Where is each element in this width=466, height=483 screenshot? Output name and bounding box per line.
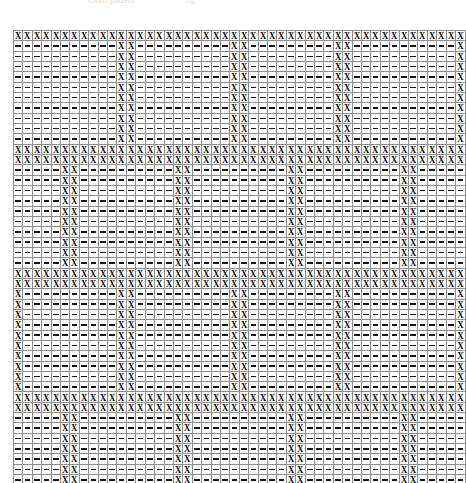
- chart-cell-filled[interactable]: X: [399, 475, 408, 483]
- chart-cell-open[interactable]: [437, 351, 446, 361]
- chart-cell-open[interactable]: [427, 216, 436, 226]
- chart-cell-open[interactable]: [352, 216, 361, 226]
- chart-cell-open[interactable]: [446, 216, 455, 226]
- chart-cell-filled[interactable]: X: [89, 278, 98, 288]
- chart-cell-filled[interactable]: X: [305, 392, 314, 402]
- chart-cell-open[interactable]: [230, 464, 239, 474]
- chart-cell-open[interactable]: [42, 413, 51, 423]
- chart-cell-filled[interactable]: X: [343, 82, 352, 92]
- chart-cell-open[interactable]: [108, 51, 117, 61]
- chart-cell-filled[interactable]: X: [286, 392, 295, 402]
- chart-cell-open[interactable]: [202, 82, 211, 92]
- chart-cell-filled[interactable]: X: [286, 144, 295, 154]
- chart-cell-open[interactable]: [155, 330, 164, 340]
- chart-cell-open[interactable]: [220, 237, 229, 247]
- chart-cell-filled[interactable]: X: [173, 402, 182, 412]
- chart-cell-filled[interactable]: X: [173, 475, 182, 483]
- chart-cell-open[interactable]: [305, 361, 314, 371]
- chart-cell-open[interactable]: [390, 227, 399, 237]
- chart-cell-open[interactable]: [42, 247, 51, 257]
- chart-cell-open[interactable]: [98, 289, 107, 299]
- chart-cell-open[interactable]: [324, 464, 333, 474]
- chart-cell-open[interactable]: [89, 134, 98, 144]
- chart-cell-open[interactable]: [164, 216, 173, 226]
- chart-cell-open[interactable]: [296, 82, 305, 92]
- chart-cell-open[interactable]: [239, 433, 248, 443]
- chart-cell-open[interactable]: [42, 72, 51, 82]
- chart-cell-filled[interactable]: X: [456, 31, 466, 41]
- chart-cell-open[interactable]: [136, 82, 145, 92]
- chart-cell-open[interactable]: [418, 475, 427, 483]
- chart-cell-filled[interactable]: X: [352, 31, 361, 41]
- chart-cell-filled[interactable]: X: [286, 237, 295, 247]
- chart-cell-open[interactable]: [249, 123, 258, 133]
- chart-cell-open[interactable]: [89, 165, 98, 175]
- chart-cell-open[interactable]: [277, 423, 286, 433]
- chart-cell-filled[interactable]: X: [333, 31, 342, 41]
- chart-cell-filled[interactable]: X: [456, 41, 466, 51]
- chart-cell-open[interactable]: [286, 320, 295, 330]
- chart-cell-filled[interactable]: X: [315, 402, 324, 412]
- chart-cell-open[interactable]: [192, 247, 201, 257]
- chart-cell-open[interactable]: [333, 165, 342, 175]
- chart-cell-open[interactable]: [70, 320, 79, 330]
- chart-cell-open[interactable]: [164, 185, 173, 195]
- chart-cell-open[interactable]: [155, 361, 164, 371]
- chart-cell-filled[interactable]: X: [456, 154, 466, 164]
- chart-cell-open[interactable]: [220, 113, 229, 123]
- chart-cell-open[interactable]: [324, 175, 333, 185]
- chart-cell-open[interactable]: [51, 185, 60, 195]
- chart-cell-filled[interactable]: X: [371, 154, 380, 164]
- chart-cell-filled[interactable]: X: [239, 134, 248, 144]
- chart-cell-filled[interactable]: X: [456, 340, 466, 350]
- chart-cell-filled[interactable]: X: [239, 41, 248, 51]
- chart-cell-open[interactable]: [108, 185, 117, 195]
- chart-cell-open[interactable]: [239, 413, 248, 423]
- chart-cell-open[interactable]: [343, 227, 352, 237]
- chart-cell-filled[interactable]: X: [14, 299, 23, 309]
- chart-cell-open[interactable]: [14, 196, 23, 206]
- chart-cell-open[interactable]: [362, 196, 371, 206]
- chart-cell-open[interactable]: [446, 433, 455, 443]
- chart-cell-open[interactable]: [315, 454, 324, 464]
- chart-cell-open[interactable]: [362, 475, 371, 483]
- chart-cell-open[interactable]: [192, 134, 201, 144]
- chart-cell-open[interactable]: [418, 134, 427, 144]
- chart-cell-open[interactable]: [315, 361, 324, 371]
- chart-cell-open[interactable]: [267, 320, 276, 330]
- chart-cell-open[interactable]: [23, 41, 32, 51]
- chart-cell-open[interactable]: [145, 413, 154, 423]
- chart-cell-open[interactable]: [371, 72, 380, 82]
- chart-cell-filled[interactable]: X: [296, 31, 305, 41]
- chart-cell-open[interactable]: [155, 423, 164, 433]
- chart-cell-filled[interactable]: X: [239, 340, 248, 350]
- chart-cell-filled[interactable]: X: [380, 268, 389, 278]
- chart-cell-filled[interactable]: X: [456, 320, 466, 330]
- chart-cell-open[interactable]: [230, 165, 239, 175]
- chart-cell-open[interactable]: [315, 175, 324, 185]
- chart-cell-open[interactable]: [324, 196, 333, 206]
- chart-cell-open[interactable]: [352, 165, 361, 175]
- chart-cell-open[interactable]: [418, 423, 427, 433]
- chart-cell-open[interactable]: [32, 423, 41, 433]
- chart-cell-open[interactable]: [239, 227, 248, 237]
- chart-cell-filled[interactable]: X: [89, 31, 98, 41]
- chart-cell-open[interactable]: [352, 371, 361, 381]
- chart-cell-open[interactable]: [390, 185, 399, 195]
- chart-cell-open[interactable]: [390, 258, 399, 268]
- chart-cell-filled[interactable]: X: [23, 268, 32, 278]
- chart-cell-filled[interactable]: X: [145, 268, 154, 278]
- chart-cell-filled[interactable]: X: [456, 351, 466, 361]
- chart-cell-open[interactable]: [89, 185, 98, 195]
- chart-cell-open[interactable]: [437, 134, 446, 144]
- chart-cell-open[interactable]: [286, 299, 295, 309]
- chart-cell-filled[interactable]: X: [117, 82, 126, 92]
- chart-cell-open[interactable]: [202, 175, 211, 185]
- chart-cell-open[interactable]: [211, 351, 220, 361]
- chart-cell-open[interactable]: [324, 185, 333, 195]
- chart-cell-open[interactable]: [380, 351, 389, 361]
- chart-cell-filled[interactable]: X: [343, 382, 352, 392]
- chart-cell-filled[interactable]: X: [183, 475, 192, 483]
- chart-cell-filled[interactable]: X: [173, 247, 182, 257]
- chart-cell-open[interactable]: [380, 475, 389, 483]
